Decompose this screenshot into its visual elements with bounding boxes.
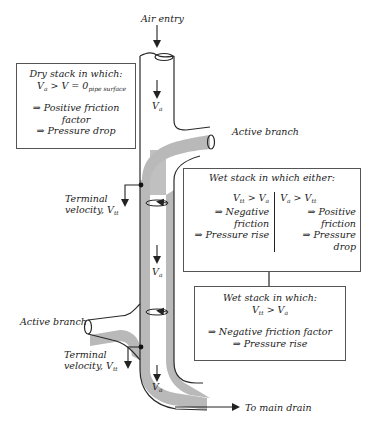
- drainage-stack-diagram: Air entry Active branch Active branch Te…: [0, 0, 369, 427]
- dry-stack-result-friction: ⇒ Positive friction factor: [17, 102, 135, 125]
- wet-stack-title: Wet stack in which:: [195, 292, 345, 304]
- air-velocity-label-3: Va: [152, 381, 162, 395]
- air-velocity-label-2: Va: [152, 266, 162, 280]
- wet-stack-either-title: Wet stack in which either:: [184, 172, 360, 184]
- dry-stack-title: Dry stack in which:: [17, 68, 135, 80]
- terminal-velocity-label-lower: Terminal velocity, Vtt: [64, 349, 118, 374]
- air-velocity-label-1: Va: [152, 100, 162, 114]
- wet-stack-result-pressure: ⇒ Pressure rise: [195, 338, 345, 350]
- wet-stack-either-box: Wet stack in which either: Vtt > Va ⇒ Ne…: [183, 168, 361, 272]
- to-main-drain-label: To main drain: [245, 402, 312, 413]
- terminal-velocity-label-upper: Terminal velocity, Vtt: [65, 193, 119, 218]
- wet-stack-result-friction: ⇒ Negative friction factor: [195, 326, 345, 338]
- active-branch-top-label: Active branch: [232, 126, 299, 137]
- active-branch-left-label: Active branch: [20, 316, 87, 327]
- dry-stack-box: Dry stack in which: Va > V = 0pipe surfa…: [16, 63, 136, 149]
- dry-stack-condition: Va > V = 0pipe surface: [17, 80, 135, 95]
- dry-stack-result-pressure: ⇒ Pressure drop: [17, 125, 135, 137]
- wet-stack-condition: Vtt > Va: [195, 304, 345, 319]
- wet-stack-box: Wet stack in which: Vtt > Va ⇒ Negative …: [194, 286, 346, 361]
- wet-stack-either-right: Va > Vtt ⇒ Positive friction ⇒ Pressure …: [275, 192, 360, 253]
- wet-stack-either-left: Vtt > Va ⇒ Negative friction ⇒ Pressure …: [184, 192, 275, 253]
- air-entry-label: Air entry: [141, 13, 184, 24]
- wet-stack-either-columns: Vtt > Va ⇒ Negative friction ⇒ Pressure …: [184, 192, 360, 253]
